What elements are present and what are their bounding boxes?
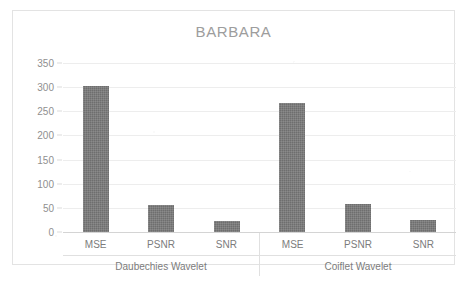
category-label-snr: SNR [391, 233, 456, 255]
category-axis: MSEPSNRSNRMSEPSNRSNR Daubechies WaveletC… [63, 232, 456, 276]
bar-psnr-coiflet[interactable] [345, 204, 371, 232]
y-tick-mark-200 [57, 135, 62, 136]
y-axis-tick-label: 350 [37, 58, 54, 69]
bar-mse-coiflet[interactable] [279, 103, 305, 232]
category-label-row: MSEPSNRSNRMSEPSNRSNR [63, 233, 456, 255]
y-axis-tick-label: 300 [37, 82, 54, 93]
chart-title: BARBARA [13, 23, 454, 40]
y-axis-tick-label: 0 [48, 227, 54, 238]
y-axis-tick-label: 100 [37, 178, 54, 189]
bar-snr-coiflet[interactable] [410, 220, 436, 232]
y-tick-mark-50 [57, 207, 62, 208]
category-label-psnr: PSNR [128, 233, 193, 255]
y-axis-tick-label: 250 [37, 106, 54, 117]
y-tick-mark-300 [57, 87, 62, 88]
bar-mse-daubechies[interactable] [83, 86, 109, 232]
y-axis-tick-label: 150 [37, 154, 54, 165]
y-tick-mark-100 [57, 183, 62, 184]
plot-area: 050100150200250300350 [63, 63, 456, 232]
chart-container: BARBARA 050100150200250300350 MSEPSNRSNR… [12, 10, 455, 265]
category-label-snr: SNR [194, 233, 259, 255]
y-tick-mark-0 [57, 232, 62, 233]
group-label: Coiflet Wavelet [259, 255, 456, 276]
bar-snr-daubechies[interactable] [214, 221, 240, 232]
category-label-mse: MSE [63, 233, 128, 255]
y-tick-mark-250 [57, 111, 62, 112]
y-axis-tick-label: 200 [37, 130, 54, 141]
group-label-row: Daubechies WaveletCoiflet Wavelet [63, 255, 456, 276]
y-tick-mark-350 [57, 63, 62, 64]
bar-psnr-daubechies[interactable] [148, 205, 174, 232]
y-axis-tick-label: 50 [43, 202, 54, 213]
category-label-psnr: PSNR [325, 233, 390, 255]
category-label-mse: MSE [259, 233, 325, 255]
y-tick-mark-150 [57, 159, 62, 160]
bars-layer [63, 63, 456, 232]
group-label: Daubechies Wavelet [63, 255, 259, 276]
